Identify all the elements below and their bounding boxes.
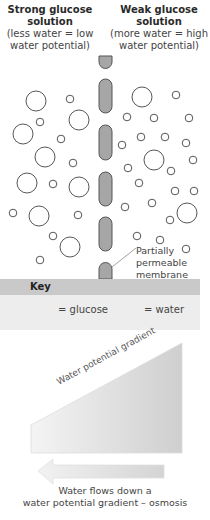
membrane-segment xyxy=(99,125,112,160)
water-molecule xyxy=(36,256,44,264)
membrane-segment xyxy=(99,217,112,251)
water-molecule xyxy=(171,187,179,195)
membrane-label-line-1: Partially xyxy=(136,245,188,257)
glucose-molecule xyxy=(144,150,164,170)
water-molecule xyxy=(118,141,126,149)
water-molecule xyxy=(190,187,198,195)
water-molecule xyxy=(161,133,169,141)
glucose-molecule xyxy=(35,147,55,167)
water-molecule xyxy=(137,133,145,141)
glucose-molecule xyxy=(60,237,80,257)
weak-solution-molecules xyxy=(118,87,198,253)
water-molecule xyxy=(150,114,158,122)
membrane-segment xyxy=(99,79,112,113)
water-molecule xyxy=(135,179,143,187)
water-molecule xyxy=(36,118,44,126)
membrane-pointer-line xyxy=(112,248,136,267)
water-molecule xyxy=(124,164,132,172)
glucose-molecule xyxy=(69,177,89,197)
membrane-segment xyxy=(99,56,112,69)
strong-solution-molecules xyxy=(9,91,89,264)
water-molecule xyxy=(123,113,131,121)
flow-arrow xyxy=(38,459,164,484)
key-glucose-label: = glucose xyxy=(58,304,108,315)
water-molecule xyxy=(182,139,190,147)
water-molecule xyxy=(49,180,57,188)
water-molecule xyxy=(189,156,197,164)
water-molecule xyxy=(166,216,174,224)
water-molecule xyxy=(69,159,77,167)
water-molecule xyxy=(121,203,129,211)
osmosis-caption: Water flows down a water potential gradi… xyxy=(0,485,210,509)
glucose-molecule xyxy=(69,110,89,130)
caption-line-2: water potential gradient – osmosis xyxy=(0,497,210,509)
water-molecule xyxy=(49,232,57,240)
membrane xyxy=(99,56,112,279)
key-title: Key xyxy=(30,281,51,292)
membrane-segment xyxy=(99,263,112,280)
water-molecule xyxy=(9,209,17,217)
water-molecule xyxy=(133,232,141,240)
key-water-label: = water xyxy=(144,304,184,315)
glucose-molecule xyxy=(177,203,197,223)
water-molecule xyxy=(57,135,65,143)
glucose-molecule xyxy=(29,206,49,226)
caption-line-1: Water flows down a xyxy=(0,485,210,497)
water-molecule xyxy=(66,95,74,103)
glucose-molecule xyxy=(26,91,46,111)
water-molecule xyxy=(156,236,164,244)
water-molecule xyxy=(148,199,156,207)
glucose-molecule xyxy=(13,124,33,144)
water-molecule xyxy=(172,91,180,99)
water-molecule xyxy=(74,211,82,219)
membrane-label: Partially permeable membrane xyxy=(136,245,188,281)
water-molecule xyxy=(185,114,193,122)
glucose-molecule xyxy=(132,87,152,107)
glucose-molecule xyxy=(17,173,37,193)
water-molecule xyxy=(167,167,175,175)
membrane-segment xyxy=(99,172,112,206)
membrane-label-line-2: permeable xyxy=(136,257,188,269)
